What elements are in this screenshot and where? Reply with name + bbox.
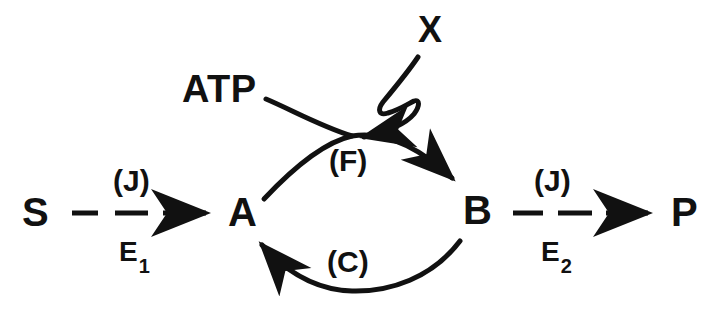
node-intermediate-a: A: [228, 192, 257, 232]
node-cofactor-atp: ATP: [182, 70, 257, 108]
enzyme-left-base: E: [119, 236, 138, 267]
node-intermediate-b: B: [463, 190, 492, 230]
enzyme-right-base: E: [541, 236, 560, 267]
enzyme-right-subscript: 2: [561, 255, 572, 277]
node-product: P: [671, 192, 698, 232]
enzyme-left-subscript: 1: [139, 255, 150, 277]
enzyme-label-right: E2: [541, 238, 571, 271]
regulator-squiggle-arrow: [364, 57, 419, 137]
node-substrate: S: [22, 192, 49, 232]
cycle-label-forward: (F): [329, 146, 367, 176]
flux-label-left: (J): [113, 166, 150, 196]
atp-input-curve: [266, 99, 352, 136]
enzyme-label-left: E1: [119, 238, 149, 271]
flux-label-right: (J): [534, 166, 571, 196]
cycle-label-reverse: (C): [327, 247, 369, 277]
node-regulator-x: X: [418, 12, 442, 48]
pathway-diagram: A --> P --> B passing through junction -…: [0, 0, 715, 314]
